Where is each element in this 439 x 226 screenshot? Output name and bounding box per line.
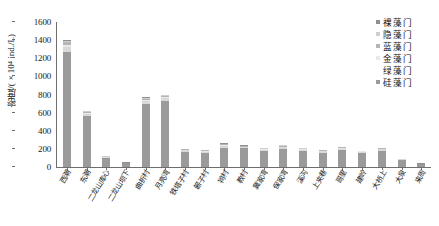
bar-group[interactable]: [215, 22, 235, 167]
x-axis-label-cell: 簖子村: [194, 168, 214, 224]
x-axis-label: 建岭: [354, 169, 368, 185]
legend-label: 硅藻门: [383, 76, 413, 88]
bar-group[interactable]: [313, 22, 333, 167]
legend-item[interactable]: 金藻门: [376, 52, 413, 63]
x-axis-labels: 西潮东潮二龙山库心二龙山坝下曲折村月亮湾铁塔子村簖子村鸨村教村冀家湾保家湾溪沟上…: [56, 168, 431, 224]
x-axis-label: 保家湾: [272, 169, 290, 191]
y-axis-tick-label: 1200: [12, 53, 56, 63]
bar-series-container: [57, 22, 431, 167]
stacked-bar[interactable]: [201, 150, 209, 167]
legend-item[interactable]: 裸藻门: [376, 16, 413, 27]
stacked-bar[interactable]: [358, 151, 366, 167]
x-axis-label-cell: 铁塔子村: [174, 168, 194, 224]
y-axis-tick-mark: [12, 130, 15, 131]
stacked-bar[interactable]: [260, 148, 268, 167]
x-axis-label-cell: 上夹巷: [313, 168, 333, 224]
legend-item[interactable]: 硅藻门: [376, 76, 413, 87]
x-axis-label: 西潮: [58, 169, 72, 185]
y-axis-tick-label: 0: [12, 162, 56, 172]
bar-segment: [338, 150, 346, 167]
bar-segment: [260, 151, 268, 167]
y-axis-tick-label: 200: [12, 144, 56, 154]
stacked-bar[interactable]: [102, 156, 110, 167]
legend-item[interactable]: 绿藻门: [376, 64, 413, 75]
x-axis-label: 大桥上: [370, 169, 388, 191]
y-axis-tick-mark: [12, 39, 15, 40]
x-axis-label-cell: 溪沟: [293, 168, 313, 224]
x-axis-label-cell: 哥里: [332, 168, 352, 224]
x-axis-label-cell: 大桥上: [372, 168, 392, 224]
bar-group[interactable]: [136, 22, 156, 167]
stacked-bar[interactable]: [63, 40, 71, 167]
x-axis-label-cell: 鸨村: [214, 168, 234, 224]
x-axis-label: 溪沟: [295, 169, 309, 185]
phytoplankton-density-bar-chart: 密度/(×10⁴ ind./L) 16001400120010008006004…: [0, 0, 439, 226]
y-axis-tick-label: 600: [12, 108, 56, 118]
legend-swatch-icon: [376, 32, 380, 36]
x-axis-label-cell: 大泉: [391, 168, 411, 224]
legend-label: 蓝藻门: [383, 40, 413, 52]
stacked-bar[interactable]: [83, 111, 91, 167]
bar-group[interactable]: [155, 22, 175, 167]
stacked-bar[interactable]: [319, 150, 327, 167]
bar-segment: [240, 148, 248, 167]
x-axis-label: 上夹巷: [311, 169, 329, 191]
bar-segment: [378, 151, 386, 167]
y-axis-tick: 200: [12, 144, 56, 154]
bar-group[interactable]: [293, 22, 313, 167]
stacked-bar[interactable]: [338, 147, 346, 167]
bar-group[interactable]: [175, 22, 195, 167]
stacked-bar[interactable]: [181, 149, 189, 167]
x-axis-label: 大泉: [394, 169, 408, 185]
plot-area: 16001400120010008006004002000: [56, 22, 431, 167]
bar-group[interactable]: [274, 22, 294, 167]
stacked-bar[interactable]: [299, 148, 307, 167]
bar-group[interactable]: [195, 22, 215, 167]
legend-label: 隐藻门: [383, 28, 413, 40]
bar-segment: [279, 149, 287, 167]
stacked-bar[interactable]: [279, 145, 287, 167]
legend-label: 金藻门: [383, 52, 413, 64]
bar-group[interactable]: [333, 22, 353, 167]
stacked-bar[interactable]: [398, 159, 406, 167]
bar-group[interactable]: [254, 22, 274, 167]
y-axis-tick-mark: [12, 166, 15, 167]
bar-group[interactable]: [352, 22, 372, 167]
legend-label: 绿藻门: [383, 64, 413, 76]
stacked-bar[interactable]: [240, 145, 248, 167]
y-axis-tick: 1400: [12, 35, 56, 45]
bar-group[interactable]: [411, 22, 431, 167]
stacked-bar[interactable]: [220, 143, 228, 167]
y-axis-tick: 800: [12, 90, 56, 100]
bar-group[interactable]: [116, 22, 136, 167]
x-axis-label: 鸨村: [216, 169, 230, 185]
x-axis-label-cell: 建岭: [352, 168, 372, 224]
x-axis-label: 簖子村: [193, 169, 211, 191]
bar-segment: [358, 153, 366, 167]
y-axis-tick: 600: [12, 108, 56, 118]
bar-group[interactable]: [77, 22, 97, 167]
x-axis-label: 来周: [414, 169, 428, 185]
x-axis-label: 冀家湾: [252, 169, 270, 191]
bar-segment: [299, 151, 307, 167]
bar-segment: [161, 101, 169, 167]
y-axis-tick-label: 1600: [12, 17, 56, 27]
stacked-bar[interactable]: [142, 97, 150, 167]
stacked-bar[interactable]: [378, 148, 386, 167]
bar-group[interactable]: [57, 22, 77, 167]
stacked-bar[interactable]: [161, 95, 169, 167]
y-axis-tick-mark: [12, 57, 15, 58]
legend-item[interactable]: 隐藻门: [376, 28, 413, 39]
bar-group[interactable]: [234, 22, 254, 167]
y-axis-tick-mark: [12, 94, 15, 95]
bar-group[interactable]: [96, 22, 116, 167]
x-axis-label: 哥里: [335, 169, 349, 185]
bar-segment: [63, 52, 71, 167]
bar-segment: [319, 153, 327, 168]
y-axis-tick-label: 1000: [12, 71, 56, 81]
bar-segment: [181, 152, 189, 167]
y-axis-tick: 400: [12, 126, 56, 136]
x-axis-label-cell: 保家湾: [273, 168, 293, 224]
legend-item[interactable]: 蓝藻门: [376, 40, 413, 51]
y-axis-tick-label: 800: [12, 90, 56, 100]
